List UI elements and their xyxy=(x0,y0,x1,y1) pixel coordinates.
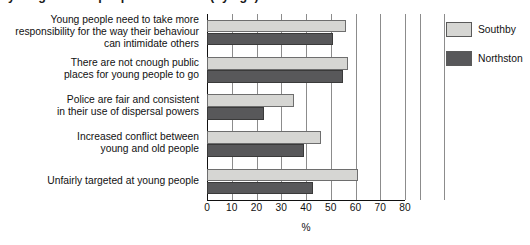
bar-northston xyxy=(207,33,333,46)
bar-group xyxy=(207,88,405,125)
chart-title: young and old people in the area (by age… xyxy=(8,0,408,5)
legend-item-northston: Northston xyxy=(446,51,526,66)
category-label-line: Increased conflict between xyxy=(3,131,199,143)
x-tick-label-70: 70 xyxy=(375,202,386,213)
bar-southby xyxy=(207,131,321,144)
bar-northston xyxy=(207,70,343,83)
x-tick-label-20: 20 xyxy=(251,202,262,213)
page-rule-2 xyxy=(444,14,445,200)
bar-southby xyxy=(207,169,358,182)
bar-group xyxy=(207,14,405,51)
bar-group xyxy=(207,163,405,200)
category-label: Police are fair and consistentin their u… xyxy=(3,94,199,118)
bar-chart: young and old people in the area (by age… xyxy=(0,0,530,245)
x-tick-label-40: 40 xyxy=(300,202,311,213)
category-label-line: can intimidate others xyxy=(3,38,199,50)
bar-northston xyxy=(207,107,264,120)
bar-southby xyxy=(207,94,294,107)
bar-northston xyxy=(207,144,304,157)
x-tick-label-80: 80 xyxy=(399,202,410,213)
category-label-line: Unfairly targeted at young people xyxy=(3,175,199,187)
gridline-80 xyxy=(405,14,406,200)
x-tick-label-30: 30 xyxy=(276,202,287,213)
category-label-line: responsibility for the way their behavio… xyxy=(3,26,199,38)
category-label-line: in their use of dispersal powers xyxy=(3,106,199,118)
category-label: There are not cnough publicplaces for yo… xyxy=(3,57,199,81)
category-label-line: Young people need to take more xyxy=(3,14,199,26)
x-axis-tick-labels: 01020304050607080 xyxy=(207,202,407,216)
legend-item-southby: Southby xyxy=(446,22,526,37)
page-rule-1 xyxy=(420,14,421,200)
legend-label-southby: Southby xyxy=(478,24,516,35)
x-tick-label-50: 50 xyxy=(325,202,336,213)
bar-group xyxy=(207,51,405,88)
category-label: Young people need to take moreresponsibi… xyxy=(3,14,199,49)
category-axis: Young people need to take moreresponsibi… xyxy=(0,14,203,200)
x-tick-label-60: 60 xyxy=(350,202,361,213)
bar-southby xyxy=(207,20,346,33)
category-label-line: places for young people to go xyxy=(3,69,199,81)
category-label-line: Police are fair and consistent xyxy=(3,94,199,106)
category-label: Unfairly targeted at young people xyxy=(3,175,199,187)
plot-area xyxy=(207,14,405,200)
x-axis-title: % xyxy=(207,222,405,233)
legend-label-northston: Northston xyxy=(478,53,523,64)
x-tick-label-0: 0 xyxy=(204,202,210,213)
chart-legend: Southby Northston xyxy=(446,22,526,80)
x-tick-label-10: 10 xyxy=(226,202,237,213)
category-label-line: There are not cnough public xyxy=(3,57,199,69)
legend-swatch-icon-southby xyxy=(446,22,472,37)
bar-group xyxy=(207,126,405,163)
category-label-line: young and old people xyxy=(3,143,199,155)
bar-southby xyxy=(207,57,348,70)
category-label: Increased conflict betweenyoung and old … xyxy=(3,131,199,155)
bar-northston xyxy=(207,182,313,195)
legend-swatch-icon-northston xyxy=(446,51,472,66)
